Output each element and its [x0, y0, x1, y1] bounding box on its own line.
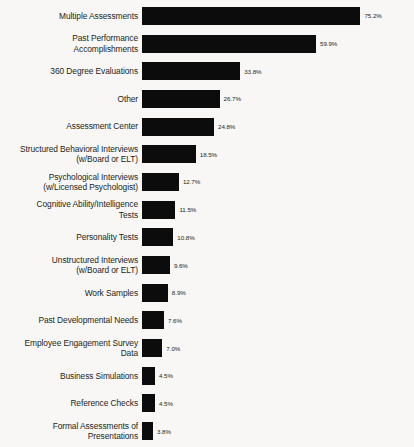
bar-row: Personality Tests10.8% — [0, 224, 414, 252]
bar-track: 11.5% — [142, 196, 414, 224]
bar-track: 4.5% — [142, 390, 414, 418]
bar-row: Employee Engagement Survey Data7.0% — [0, 334, 414, 362]
value-label: 59.9% — [316, 40, 337, 47]
bar — [142, 284, 168, 302]
bar-row: 360 Degree Evaluations33.8% — [0, 57, 414, 85]
bar — [142, 256, 170, 274]
category-label: Work Samples — [0, 288, 142, 298]
category-label: Assessment Center — [0, 121, 142, 131]
horizontal-bar-chart: Multiple Assessments75.2%Past Performanc… — [0, 0, 414, 447]
bar — [142, 228, 173, 246]
bar — [142, 62, 240, 80]
bar-row: Business Simulations4.5% — [0, 362, 414, 390]
bar-track: 12.7% — [142, 168, 414, 196]
bar-track: 26.7% — [142, 85, 414, 113]
bar-row: Work Samples8.9% — [0, 279, 414, 307]
bar-track: 18.5% — [142, 140, 414, 168]
bar — [142, 90, 220, 108]
bar — [142, 35, 316, 53]
bar — [142, 173, 179, 191]
bar-row: Unstructured Interviews (w/Board or ELT)… — [0, 251, 414, 279]
bar-row: Formal Assessments of Presentations3.8% — [0, 417, 414, 445]
value-label: 24.8% — [214, 123, 235, 130]
category-label: Formal Assessments of Presentations — [0, 421, 142, 442]
category-label: Unstructured Interviews (w/Board or ELT) — [0, 255, 142, 276]
bar-row: Psychological Interviews (w/Licensed Psy… — [0, 168, 414, 196]
bar-row: Cognitive Ability/Intelligence Tests11.5… — [0, 196, 414, 224]
category-label: Personality Tests — [0, 232, 142, 242]
bar-row: Reference Checks4.5% — [0, 390, 414, 418]
bar-row: Structured Behavioral Interviews (w/Boar… — [0, 140, 414, 168]
category-label: Multiple Assessments — [0, 11, 142, 21]
category-label: Employee Engagement Survey Data — [0, 338, 142, 359]
value-label: 3.8% — [153, 428, 171, 435]
value-label: 4.5% — [155, 400, 173, 407]
category-label: Past Developmental Needs — [0, 315, 142, 325]
bar-track: 33.8% — [142, 57, 414, 85]
value-label: 8.9% — [168, 289, 186, 296]
bar — [142, 422, 153, 440]
value-label: 33.8% — [240, 68, 261, 75]
bar — [142, 394, 155, 412]
category-label: 360 Degree Evaluations — [0, 66, 142, 76]
value-label: 11.5% — [175, 206, 196, 213]
value-label: 12.7% — [179, 178, 200, 185]
bar-track: 24.8% — [142, 113, 414, 141]
category-label: Psychological Interviews (w/Licensed Psy… — [0, 172, 142, 193]
bar — [142, 145, 196, 163]
bar — [142, 118, 214, 136]
value-label: 75.2% — [360, 12, 381, 19]
bar — [142, 367, 155, 385]
bar-track: 59.9% — [142, 30, 414, 58]
bar-track: 4.5% — [142, 362, 414, 390]
bar-track: 75.2% — [142, 2, 414, 30]
bar — [142, 311, 164, 329]
bar-track: 9.6% — [142, 251, 414, 279]
category-label: Business Simulations — [0, 371, 142, 381]
bar — [142, 339, 162, 357]
value-label: 18.5% — [196, 151, 217, 158]
value-label: 10.8% — [173, 234, 194, 241]
bar-track: 10.8% — [142, 224, 414, 252]
bar-row: Other26.7% — [0, 85, 414, 113]
category-label: Past Performance Accomplishments — [0, 33, 142, 54]
bar-track: 3.8% — [142, 417, 414, 445]
bar-row: Past Performance Accomplishments59.9% — [0, 30, 414, 58]
bar-track: 7.0% — [142, 334, 414, 362]
category-label: Other — [0, 94, 142, 104]
bar-row: Past Developmental Needs7.6% — [0, 307, 414, 335]
value-label: 7.6% — [164, 317, 182, 324]
bar — [142, 201, 175, 219]
bar-track: 8.9% — [142, 279, 414, 307]
category-label: Cognitive Ability/Intelligence Tests — [0, 199, 142, 220]
category-label: Reference Checks — [0, 398, 142, 408]
value-label: 26.7% — [220, 95, 241, 102]
bar-row: Multiple Assessments75.2% — [0, 2, 414, 30]
value-label: 7.0% — [162, 345, 180, 352]
category-label: Structured Behavioral Interviews (w/Boar… — [0, 144, 142, 165]
bar-track: 7.6% — [142, 307, 414, 335]
bar-row: Assessment Center24.8% — [0, 113, 414, 141]
value-label: 4.5% — [155, 372, 173, 379]
bar — [142, 7, 360, 25]
value-label: 9.6% — [170, 262, 188, 269]
